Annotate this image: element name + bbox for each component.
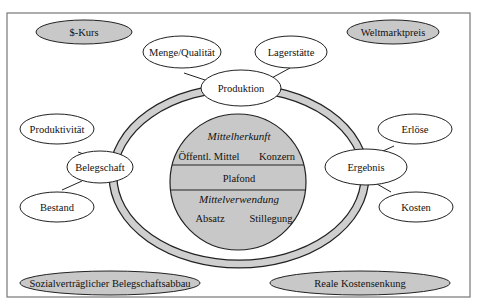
node-dollar-rate: $-Kurs — [36, 20, 132, 44]
svg-text:Belegschaft: Belegschaft — [75, 162, 125, 173]
svg-text:Reale Kostensenkung: Reale Kostensenkung — [314, 278, 406, 289]
node-world-price: Weltmarktpreis — [347, 20, 439, 44]
funding-diagram: Mittelherkunft Öffentl. Mittel Konzern P… — [0, 0, 477, 307]
node-revenues: Erlöse — [378, 114, 452, 144]
node-stock: Bestand — [20, 192, 94, 222]
svg-text:$-Kurs: $-Kurs — [69, 27, 98, 38]
svg-text:Menge/Qualität: Menge/Qualität — [149, 47, 215, 58]
node-productivity: Produktivität — [20, 114, 94, 144]
svg-text:Kosten: Kosten — [401, 202, 431, 213]
use-title: Mittelverwendung — [198, 193, 280, 205]
svg-text:Weltmarktpreis: Weltmarktpreis — [361, 27, 425, 38]
node-social-reduction: Sozialverträglicher Belegschaftsabbau — [20, 271, 200, 295]
node-deposit: Lagerstätte — [255, 36, 327, 68]
svg-text:Produktivität: Produktivität — [30, 124, 85, 135]
node-result: Ergebnis — [325, 149, 407, 185]
node-production: Produktion — [201, 70, 281, 106]
node-real-cost-reduction: Reale Kostensenkung — [270, 271, 450, 295]
node-quantity-quality: Menge/Qualität — [143, 36, 221, 68]
ceiling-label: Plafond — [223, 173, 256, 184]
svg-text:Produktion: Produktion — [218, 83, 265, 94]
svg-text:Erlöse: Erlöse — [402, 124, 429, 135]
origin-public-funds: Öffentl. Mittel — [178, 151, 239, 162]
use-sales: Absatz — [195, 213, 224, 224]
origin-group: Konzern — [259, 151, 296, 162]
svg-text:Ergebnis: Ergebnis — [347, 162, 384, 173]
svg-text:Lagerstätte: Lagerstätte — [268, 47, 315, 58]
node-costs: Kosten — [379, 192, 453, 222]
node-workforce: Belegschaft — [67, 151, 133, 183]
origin-title: Mittelherkunft — [207, 130, 272, 142]
svg-text:Sozialverträglicher Belegschaf: Sozialverträglicher Belegschaftsabbau — [29, 278, 191, 289]
use-closure: Stillegung — [249, 213, 293, 224]
svg-text:Bestand: Bestand — [40, 202, 75, 213]
